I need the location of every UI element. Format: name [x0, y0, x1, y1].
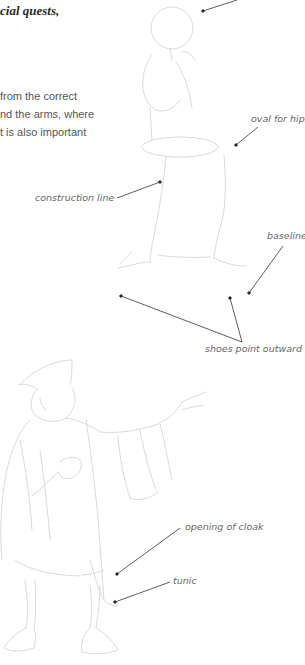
label-shoes-point-outward: shoes point outward	[205, 343, 302, 354]
label-tunic: tunic	[173, 575, 197, 586]
book-page: cial quests, from the correct nd the arm…	[0, 0, 305, 665]
label-oval-for-hips: oval for hips	[251, 113, 305, 124]
sketch-illustration	[0, 0, 305, 665]
label-baseline: baseline	[267, 230, 305, 241]
label-opening-of-cloak: opening of cloak	[185, 521, 264, 532]
cloaked-figure	[1, 360, 206, 654]
leader-lines	[114, 0, 283, 603]
label-construction-line: construction line	[35, 192, 114, 203]
construction-figure	[118, 7, 246, 268]
